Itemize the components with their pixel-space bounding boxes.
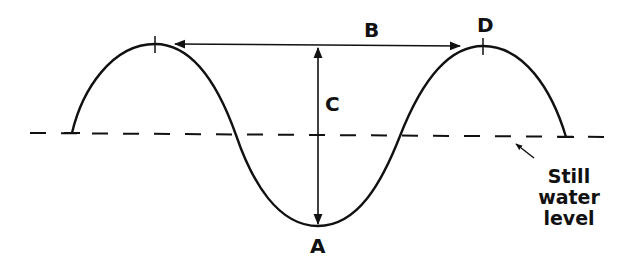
annotation-line-1: Still bbox=[524, 166, 614, 187]
label-a: A bbox=[310, 236, 325, 256]
annotation-line-3: level bbox=[524, 208, 614, 229]
still-water-pointer-arrow bbox=[516, 144, 534, 158]
wavelength-arrow bbox=[175, 44, 460, 46]
label-d: D bbox=[477, 15, 494, 35]
label-c: C bbox=[325, 94, 340, 114]
label-b: B bbox=[364, 20, 379, 40]
annotation-line-2: water bbox=[524, 187, 614, 208]
still-water-level-annotation: Still water level bbox=[524, 166, 614, 229]
